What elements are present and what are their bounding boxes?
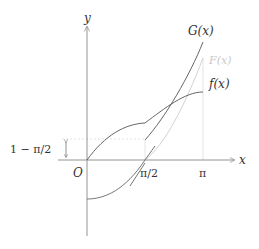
origin-label: O: [73, 166, 83, 180]
tick-label-half-pi: π/2: [140, 167, 158, 180]
curve-G: [145, 42, 203, 140]
x-axis-label: x: [239, 153, 246, 167]
level-annotation: 1 − π/2: [10, 143, 51, 156]
function-diagram: y x O π/2 π 1 − π/2 G(x) F(x) f(x): [0, 0, 259, 249]
label-F: F(x): [208, 54, 231, 67]
curve-F: [145, 58, 203, 160]
label-f: f(x): [208, 77, 230, 91]
y-axis-label: y: [83, 11, 91, 25]
tick-label-pi: π: [199, 167, 206, 180]
label-G: G(x): [188, 24, 214, 38]
